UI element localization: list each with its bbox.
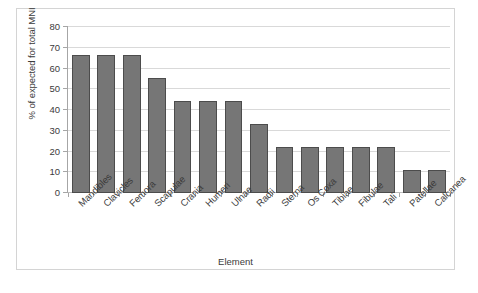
y-axis-tick-mark [63,109,67,110]
y-axis-tick-mark [63,26,67,27]
y-axis-tick-mark [63,68,67,69]
y-axis-tick-mark [63,192,67,193]
x-axis-tick-label: Sterna [279,182,306,209]
y-axis-tick-mark [63,88,67,89]
x-axis-tick-label: Radii [254,186,277,209]
y-axis-tick-mark [63,130,67,131]
x-axis-tick-labels: MandiblesClaviclesFemoraScapulaeCraniaHu… [0,0,478,293]
x-axis-title: Element [16,256,455,267]
x-axis-tick-label: Tali [381,191,399,209]
x-axis-tick-label: Ulnae [229,184,254,209]
x-axis-tick-label: Fibulae [356,179,385,208]
y-axis-tick-mark [63,47,67,48]
bar-chart-figure: % of expected for total MNI 010203040506… [0,0,478,293]
x-axis-tick-label: Patellae [407,177,438,208]
y-axis-tick-mark [63,151,67,152]
x-axis-tick-label: Calcanea [432,173,468,209]
y-axis-tick-mark [63,171,67,172]
x-axis-tick-label: Humeri [203,180,232,209]
